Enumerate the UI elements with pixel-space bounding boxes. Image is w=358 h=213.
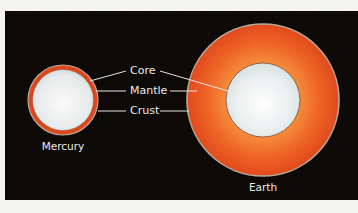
label-crust: Crust [130, 105, 159, 117]
core-line-left [90, 71, 126, 81]
label-earth: Earth [249, 181, 277, 193]
earth-planet [187, 24, 339, 176]
earth-core [226, 63, 300, 137]
label-mercury: Mercury [42, 140, 85, 152]
mercury-planet [28, 65, 98, 135]
mercury-core [33, 70, 94, 131]
label-mantle: Mantle [130, 85, 167, 97]
planet-diagram [0, 0, 358, 213]
label-core: Core [130, 65, 155, 77]
